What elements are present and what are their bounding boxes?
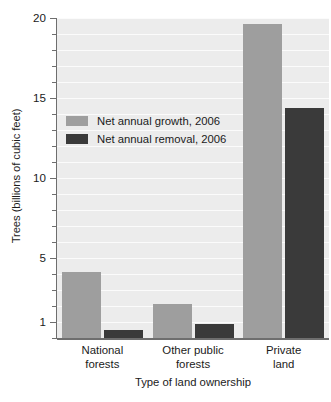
x-tick-label-line: Private (224, 344, 331, 358)
gridline (57, 34, 329, 35)
y-tick-minor (52, 338, 57, 339)
y-tick-minor (52, 114, 57, 115)
legend-swatch-removal-icon (66, 134, 88, 144)
gridline (57, 66, 329, 67)
y-tick-label: 5 (6, 251, 46, 264)
y-tick-major (50, 18, 57, 19)
y-tick-minor (52, 146, 57, 147)
legend-swatch-growth-icon (66, 116, 88, 126)
gridline (57, 98, 329, 99)
y-tick-major (50, 98, 57, 99)
y-tick-minor (52, 66, 57, 67)
y-tick-minor (52, 306, 57, 307)
y-tick-minor (52, 82, 57, 83)
y-tick-minor (52, 274, 57, 275)
y-tick-major (50, 258, 57, 259)
y-tick-minor (52, 290, 57, 291)
bar-chart-figure: Trees (billions of cubic feet) 15101520 … (0, 0, 331, 402)
bar-private-land-growth (243, 24, 282, 338)
y-tick-minor (52, 130, 57, 131)
y-tick-minor (52, 50, 57, 51)
plot-area (57, 18, 329, 338)
gridline (57, 82, 329, 83)
bar-other-public-forests-removal (195, 324, 234, 338)
y-tick-minor (52, 242, 57, 243)
y-tick-label: 20 (6, 11, 46, 24)
legend-label-growth: Net annual growth, 2006 (97, 115, 220, 127)
legend-item-removal: Net annual removal, 2006 (66, 130, 226, 148)
y-tick-label: 10 (6, 171, 46, 184)
gridline (57, 50, 329, 51)
y-tick-minor (52, 162, 57, 163)
y-tick-label: 15 (6, 91, 46, 104)
bar-national-forests-growth (62, 272, 101, 338)
legend-item-growth: Net annual growth, 2006 (66, 112, 226, 130)
gridline (57, 18, 329, 19)
x-tick-label: Privateland (224, 344, 331, 371)
legend-label-removal: Net annual removal, 2006 (97, 133, 226, 145)
x-axis-line (57, 338, 329, 340)
y-tick-label: 1 (6, 315, 46, 328)
x-tick-label-line: land (224, 358, 331, 372)
x-axis-title: Type of land ownership (57, 376, 329, 388)
y-tick-major (50, 322, 57, 323)
y-tick-minor (52, 226, 57, 227)
y-tick-minor (52, 194, 57, 195)
bar-national-forests-removal (104, 330, 143, 338)
y-tick-minor (52, 210, 57, 211)
y-tick-major (50, 178, 57, 179)
bar-private-land-removal (285, 108, 324, 338)
bar-other-public-forests-growth (153, 304, 192, 338)
y-tick-minor (52, 34, 57, 35)
chart-legend: Net annual growth, 2006 Net annual remov… (66, 112, 226, 148)
